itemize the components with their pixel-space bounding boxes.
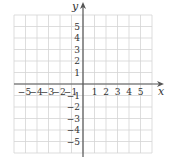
coordinate-plane: −5−4−3−2−11234554321−1−2−3−4−5 x y: [0, 0, 175, 165]
x-tick-label: 3: [115, 87, 121, 97]
y-tick-label: 3: [74, 45, 80, 55]
x-tick-label: 5: [138, 87, 144, 97]
axes: [14, 2, 164, 157]
y-tick-label: −1: [67, 91, 80, 101]
y-tick-label: −4: [67, 125, 81, 135]
x-axis-label: x: [158, 85, 165, 98]
y-tick-label: 2: [74, 56, 80, 66]
y-tick-label: 5: [74, 22, 80, 32]
x-tick-label: 4: [126, 87, 132, 97]
y-tick-label: −5: [67, 137, 81, 147]
y-tick-label: 4: [74, 33, 80, 43]
y-tick-label: −3: [67, 114, 81, 124]
x-tick-label: 1: [92, 87, 98, 97]
y-tick-label: 1: [74, 68, 80, 78]
y-tick-label: −2: [67, 102, 80, 112]
x-tick-label: 2: [103, 87, 109, 97]
y-axis-label: y: [71, 0, 79, 13]
